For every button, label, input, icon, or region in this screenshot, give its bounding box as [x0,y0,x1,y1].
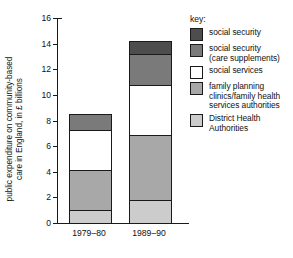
legend-item-label: social security(care supplements) [209,44,280,63]
y-tick-mark [53,197,57,198]
legend-item-label: social security [209,28,261,38]
y-tick-mark [53,223,57,224]
y-tick-label: 12 [41,64,51,74]
legend-swatch-icon [190,114,203,127]
bar-stack-1979-80 [69,114,112,223]
y-tick-mark [53,69,57,70]
legend-item-label: District HealthAuthorities [209,114,260,133]
y-tick-label: 8 [46,116,51,126]
y-tick-label: 2 [46,192,51,202]
y-tick-mark [53,44,57,45]
legend-item: social security(care supplements) [190,44,293,63]
y-axis-title-line-1: public expenditure on community-based [4,57,14,202]
y-tick-mark [53,121,57,122]
y-tick-mark [53,18,57,19]
legend-item: family planningclinics/family healthserv… [190,82,293,111]
bar-segment [129,135,172,200]
y-axis-top-cap [57,18,62,19]
y-tick-mark [53,95,57,96]
legend-item-label: family planningclinics/family healthserv… [209,82,280,111]
bar-segment [129,54,172,86]
bar-segment [129,41,172,55]
y-tick-label: 16 [41,13,51,23]
bar-segment [69,170,112,211]
legend-item-label-line: services authorities [209,101,280,111]
bar-stack-1989-90 [129,41,172,223]
legend-swatch-icon [190,28,203,41]
legend-item: District HealthAuthorities [190,114,293,133]
bar-segment [69,210,112,224]
legend-item-label-line: (care supplements) [209,54,280,64]
legend-title: key: [190,14,293,24]
legend-entries: social securitysocial security(care supp… [190,28,293,133]
y-axis-line [57,18,58,224]
y-tick-mark [53,146,57,147]
bar-segment [69,114,112,131]
y-tick-label: 14 [41,39,51,49]
legend-item-label: social services [209,66,263,76]
legend-item: social services [190,66,293,79]
y-axis-title-line-2: care in England, in £ billions [14,57,24,202]
legend-item: social security [190,28,293,41]
legend-swatch-icon [190,44,203,57]
x-tick-label-1989-90: 1989–90 [114,228,184,238]
bar-segment [69,130,112,171]
chart-figure: public expenditure on community-based ca… [0,0,293,258]
legend-swatch-icon [190,66,203,79]
y-tick-label: 0 [46,218,51,228]
y-tick-label: 4 [46,167,51,177]
legend-swatch-icon [190,82,203,95]
bar-segment [129,85,172,136]
y-tick-label: 10 [41,90,51,100]
y-axis-title: public expenditure on community-based ca… [0,0,28,258]
y-tick-mark [53,172,57,173]
y-tick-label: 6 [46,141,51,151]
legend-item-label-line: Authorities [209,124,260,134]
legend: key: social securitysocial security(care… [190,14,293,136]
bar-segment [129,200,172,224]
legend-item-label-line: social security [209,28,261,38]
plot-area: 0246810121416 1979–80 1989–90 [57,18,184,224]
legend-item-label-line: social services [209,66,263,76]
